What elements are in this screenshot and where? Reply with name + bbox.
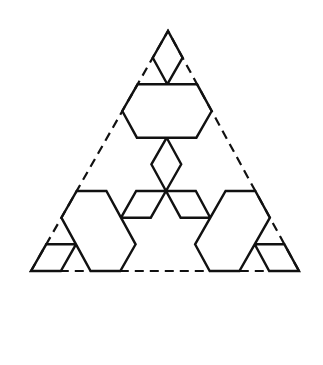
koch-snowflake-diagram [0,0,323,365]
